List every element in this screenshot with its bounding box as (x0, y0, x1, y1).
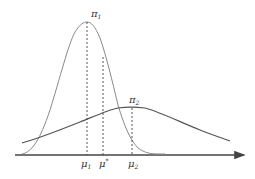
curve-pi1 (22, 22, 165, 154)
mu2-label: μ2 (128, 158, 139, 170)
diagram-canvas: π1 π2 μ1 μ* μ2 (0, 0, 255, 179)
pi2-label: π2 (128, 94, 140, 106)
curve-pi2 (22, 107, 230, 143)
mu1-label: μ1 (81, 158, 91, 170)
pi1-label: π1 (90, 8, 101, 20)
mu-star-label: μ* (99, 157, 109, 169)
